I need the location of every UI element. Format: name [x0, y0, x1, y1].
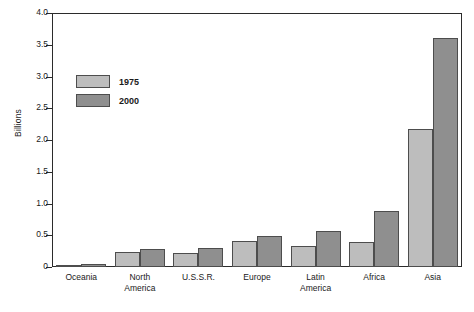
bar-latin-america-2000 — [316, 231, 341, 267]
y-axis-tick-label: 0 — [2, 262, 48, 271]
bar-oceania-1975 — [56, 265, 81, 267]
legend-swatch-2000 — [76, 94, 110, 107]
legend-label-1975: 1975 — [119, 77, 139, 87]
y-axis-tick-label: 0.5 — [2, 230, 48, 239]
bar-chart: Billions 4.03.53.02.52.01.51.00.50 Ocean… — [0, 0, 474, 312]
bar-europe-1975 — [232, 241, 257, 267]
bar-north-america-2000 — [140, 249, 165, 267]
legend-item-2000: 2000 — [76, 93, 139, 108]
y-axis-tick-label: 4.0 — [2, 8, 48, 17]
x-axis-label-line: Asia — [393, 272, 473, 283]
y-axis-title: Billions — [13, 83, 23, 163]
legend-swatch-1975 — [76, 75, 110, 88]
bar-asia-1975 — [408, 129, 433, 267]
y-axis-tick-label: 3.5 — [2, 40, 48, 49]
bars-layer — [52, 13, 462, 267]
chart-legend: 1975 2000 — [76, 74, 139, 112]
y-axis-tick-label: 1.5 — [2, 167, 48, 176]
y-axis-tick-label: 3.0 — [2, 72, 48, 81]
bar-latin-america-1975 — [291, 246, 316, 267]
bar-europe-2000 — [257, 236, 282, 267]
bar-u-s-s-r-2000 — [198, 248, 223, 267]
y-axis-tick-label: 2.5 — [2, 103, 48, 112]
bar-africa-1975 — [349, 242, 374, 267]
y-axis-tick-label: 1.0 — [2, 199, 48, 208]
bar-north-america-1975 — [115, 252, 140, 267]
x-axis-label-asia: Asia — [393, 272, 473, 283]
legend-label-2000: 2000 — [119, 96, 139, 106]
bar-oceania-2000 — [81, 264, 106, 267]
bar-asia-2000 — [433, 38, 458, 267]
y-axis-tick-label: 2.0 — [2, 135, 48, 144]
x-axis-label-line: America — [100, 283, 180, 294]
x-axis-label-line: America — [276, 283, 356, 294]
bar-u-s-s-r-1975 — [173, 253, 198, 267]
bar-africa-2000 — [374, 211, 399, 268]
legend-item-1975: 1975 — [76, 74, 139, 89]
